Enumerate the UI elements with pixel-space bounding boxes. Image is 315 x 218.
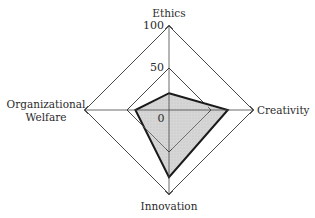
data-series-polygon (135, 93, 227, 177)
radar-chart: 100 50 0 Ethics Creativity Innovation Or… (0, 0, 315, 218)
axis-label-innovation: Innovation (141, 200, 198, 212)
tick-label-50: 50 (150, 61, 164, 74)
axis-label-creativity: Creativity (257, 104, 310, 116)
axis-label-organizational: Organizational (7, 98, 86, 110)
axis-label-welfare: Welfare (26, 111, 67, 123)
tick-label-100: 100 (143, 19, 164, 32)
axis-label-ethics: Ethics (152, 7, 185, 19)
tick-label-0: 0 (158, 112, 165, 125)
